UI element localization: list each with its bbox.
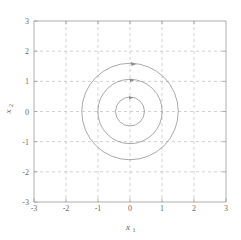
y-tick-label: 1	[25, 77, 29, 86]
y-tick-label: -2	[22, 168, 29, 177]
x-tick-label: 3	[224, 204, 228, 213]
y-axis-label-base: x	[3, 110, 13, 115]
y-tick-label: 2	[25, 47, 29, 56]
y-tick-label: -3	[22, 198, 29, 207]
y-tick-labels: 3 2 1 0 -1 -2 -3	[22, 17, 29, 207]
y-tick-label: -1	[22, 138, 29, 147]
y-tick-label: 3	[25, 17, 29, 26]
x-tick-label: 0	[128, 204, 132, 213]
x-tick-label: 2	[192, 204, 196, 213]
x-axis-label-base: x	[125, 222, 130, 232]
y-axis-label: x 2	[3, 104, 14, 115]
x-axis-label-subscript: 1	[133, 227, 136, 233]
x-axis-label: x 1	[125, 222, 136, 233]
x-tick-labels: -3 -2 -1 0 1 2 3	[31, 204, 228, 213]
figure-container: -3 -2 -1 0 1 2 3 3 2 1 0 -1 -2 -3 x 1 x …	[0, 0, 241, 240]
x-tick-label: -3	[31, 204, 38, 213]
x-tick-label: -1	[95, 204, 102, 213]
x-tick-label: -2	[63, 204, 70, 213]
x-tick-label: 1	[160, 204, 164, 213]
phase-portrait-chart: -3 -2 -1 0 1 2 3 3 2 1 0 -1 -2 -3 x 1 x …	[0, 0, 241, 240]
y-axis-label-subscript: 2	[8, 104, 14, 107]
y-tick-label: 0	[25, 108, 29, 117]
